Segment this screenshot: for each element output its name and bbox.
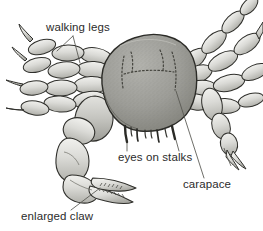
crab-illustration [0, 0, 263, 231]
label-walking-legs: walking legs [46, 22, 110, 34]
leader-eyes-b [176, 140, 179, 151]
label-eyes-on-stalks: eyes on stalks [118, 152, 192, 164]
label-enlarged-claw: enlarged claw [21, 211, 93, 223]
label-carapace: carapace [183, 179, 231, 191]
carapace-body [102, 34, 197, 131]
crab-anatomy-figure: walking legs eyes on stalks carapace enl… [0, 0, 263, 231]
